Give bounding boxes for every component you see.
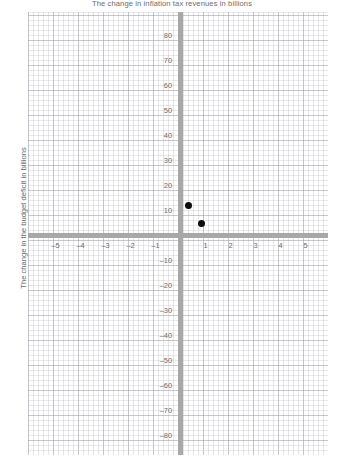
- y-tick-label: –70: [150, 407, 172, 415]
- scatter-chart: The change in inflation tax revenues in …: [0, 0, 344, 463]
- x-axis-line: [28, 233, 328, 238]
- y-tick-label: 50: [150, 107, 172, 115]
- x-tick-label: 5: [296, 242, 316, 250]
- y-tick-label: 40: [150, 132, 172, 140]
- y-tick-label: –80: [150, 432, 172, 440]
- x-tick-label: –4: [71, 242, 91, 250]
- x-tick-label: 4: [271, 242, 291, 250]
- y-tick-label: 20: [150, 182, 172, 190]
- y-tick-label: 30: [150, 157, 172, 165]
- y-tick-label: –40: [150, 332, 172, 340]
- x-tick-label: 1: [196, 242, 216, 250]
- data-point: [198, 220, 205, 227]
- y-tick-label: –20: [150, 282, 172, 290]
- y-tick-label: –50: [150, 357, 172, 365]
- x-tick-label: –5: [46, 242, 66, 250]
- y-tick-label: 10: [150, 207, 172, 215]
- chart-title: The change in inflation tax revenues in …: [0, 0, 344, 10]
- y-tick-label: –10: [150, 257, 172, 265]
- y-tick-label: 80: [150, 32, 172, 40]
- x-tick-label: –3: [96, 242, 116, 250]
- x-tick-label: 3: [246, 242, 266, 250]
- x-tick-label: –2: [121, 242, 141, 250]
- y-tick-label: –30: [150, 307, 172, 315]
- data-point: [185, 202, 192, 209]
- plot-area: –5–4–3–2–112345 8070605040302010–10–20–3…: [28, 12, 328, 455]
- x-tick-label: –1: [146, 242, 166, 250]
- y-tick-label: 60: [150, 82, 172, 90]
- y-tick-label: –60: [150, 382, 172, 390]
- y-tick-label: 70: [150, 57, 172, 65]
- x-tick-label: 2: [221, 242, 241, 250]
